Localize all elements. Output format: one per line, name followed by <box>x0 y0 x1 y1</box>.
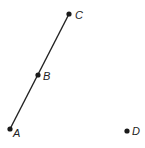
segment-ac <box>10 14 69 129</box>
point-d <box>124 128 129 133</box>
point-c <box>66 11 71 16</box>
point-label-b: B <box>43 70 50 82</box>
point-a <box>7 126 12 131</box>
point-b <box>35 72 40 77</box>
point-label-d: D <box>132 125 140 137</box>
point-label-a: A <box>12 127 20 139</box>
geometry-diagram: ABCD <box>0 0 145 148</box>
point-label-c: C <box>75 9 83 21</box>
